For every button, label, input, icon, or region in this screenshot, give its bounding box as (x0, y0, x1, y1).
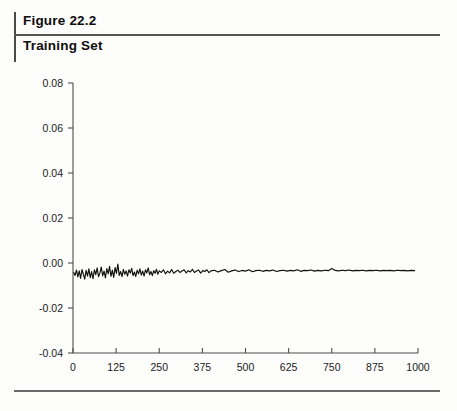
figure-page: Figure 22.2 Training Set -0.04-0.020.000… (0, 0, 457, 411)
y-tick-label: 0.00 (43, 257, 64, 269)
y-tick-label: 0.02 (43, 212, 64, 224)
header-left-rule (14, 12, 16, 62)
x-tick-label: 375 (194, 361, 212, 373)
x-tick-label: 125 (107, 361, 125, 373)
figure-header: Figure 22.2 Training Set (14, 12, 440, 62)
x-tick-label: 750 (323, 361, 341, 373)
figure-number-label: Figure 22.2 (23, 13, 96, 28)
x-axis-tick-marks (73, 348, 418, 353)
y-tick-label: 0.08 (43, 77, 64, 89)
x-tick-label: 250 (150, 361, 168, 373)
x-tick-label: 500 (237, 361, 255, 373)
x-tick-label: 625 (280, 361, 298, 373)
x-tick-label: 1000 (406, 361, 430, 373)
y-axis-tick-labels: -0.04-0.020.000.020.040.060.08 (39, 77, 63, 359)
y-tick-label: -0.04 (39, 347, 63, 359)
x-tick-label: 0 (70, 361, 76, 373)
data-series-training-error (74, 264, 415, 279)
y-tick-label: 0.04 (43, 167, 64, 179)
chart-plot-area: -0.04-0.020.000.020.040.060.08 012525037… (0, 62, 457, 382)
footer-rule (14, 390, 440, 392)
line-chart: -0.04-0.020.000.020.040.060.08 012525037… (0, 62, 457, 382)
figure-subtitle-label: Training Set (23, 38, 103, 53)
y-tick-label: 0.06 (43, 122, 64, 134)
header-divider-rule (14, 34, 440, 36)
y-tick-label: -0.02 (39, 302, 63, 314)
x-tick-label: 875 (366, 361, 384, 373)
x-axis-tick-labels: 01252503755006257508751000 (70, 361, 430, 373)
y-axis-tick-marks (68, 83, 73, 353)
